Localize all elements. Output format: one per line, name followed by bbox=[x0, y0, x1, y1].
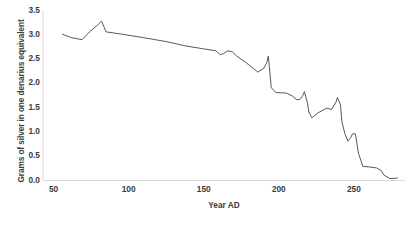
plot-area bbox=[0, 0, 410, 226]
data-series-line bbox=[63, 21, 398, 178]
chart-container: Grams of silver in one denarius equivale… bbox=[0, 0, 410, 226]
